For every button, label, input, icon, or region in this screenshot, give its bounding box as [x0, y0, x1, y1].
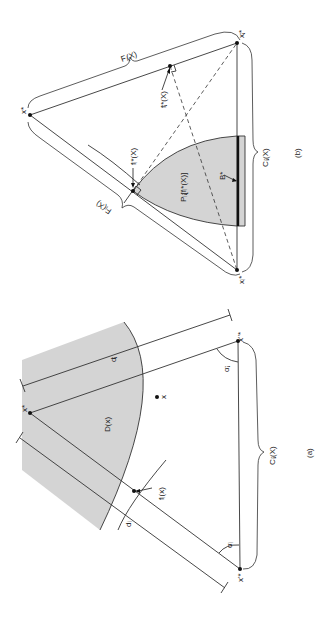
dim-di-tick-right: [221, 582, 228, 593]
label-b-star: B*: [218, 172, 227, 180]
label-xi-star-b: xᵢ*: [237, 276, 246, 284]
point-x-star: [28, 113, 32, 117]
arrow-fj-star: [162, 70, 169, 90]
label-dx: D(x): [103, 417, 112, 432]
caption-a: (a): [305, 448, 314, 458]
point-xi-star: [235, 268, 239, 272]
label-cij-a: Cᵢⱼ(X): [268, 446, 277, 465]
label-x-star-a: x*: [20, 405, 29, 412]
arrowhead-fj-star: [167, 67, 170, 74]
figure-canvas: x* xⱼ* xᵢ* Fⱼ(X) Fᵢ(X) fᵢ*(X) fⱼ*(X) Pᵢⱼ…: [0, 0, 322, 617]
angle-arc-alpha-j: [217, 349, 238, 362]
label-alpha-i: αᵢ: [225, 542, 234, 548]
caption-b: (b): [293, 148, 302, 158]
tangent-tick-fi: [124, 186, 136, 203]
dim-di-tick-left: [16, 432, 23, 443]
label-xj-star-b: xⱼ*: [237, 30, 246, 38]
label-alpha-j: αⱼ: [222, 366, 231, 372]
arrow-fi-x: [138, 488, 152, 491]
label-fi-star: fᵢ*(X): [129, 147, 138, 165]
label-fi-b: Fᵢ(X): [94, 199, 113, 216]
panel-b: x* xⱼ* xᵢ* Fⱼ(X) Fᵢ(X) fᵢ*(X) fⱼ*(X) Pᵢⱼ…: [19, 30, 302, 284]
point-fi-star: [131, 189, 135, 193]
label-pij: Pᵢⱼ[fᵢ*(X)]: [179, 173, 188, 202]
label-cij-b: Cᵢⱼ(X): [261, 148, 270, 167]
label-x-star-b: x*: [19, 107, 28, 114]
brace-fj: [28, 32, 240, 108]
point-xp-star: [238, 567, 242, 571]
label-xpp-star: x''*: [236, 332, 245, 342]
dim-dj-tick-right: [228, 309, 232, 321]
panel-a: x* x''* x'* D(x) x fᵢ(x) dⱼ dᵢ αⱼ αᵢ Cᵢⱼ…: [16, 309, 314, 593]
edge-xpp-xp: [238, 341, 240, 569]
arrowhead-fi-star: [131, 183, 135, 188]
label-fi-x: fᵢ(x): [157, 487, 166, 500]
label-dj: dⱼ: [109, 357, 118, 362]
brace-cij-a: [243, 342, 264, 569]
label-xp-star: x'*: [236, 573, 245, 582]
label-fj-star: fⱼ*(X): [159, 91, 168, 108]
shaded-region-dx: [22, 322, 143, 530]
shaded-region-pij: [133, 136, 245, 226]
point-xj-star: [235, 41, 239, 45]
label-di: dᵢ: [124, 521, 133, 527]
label-x-point: x: [159, 395, 168, 399]
